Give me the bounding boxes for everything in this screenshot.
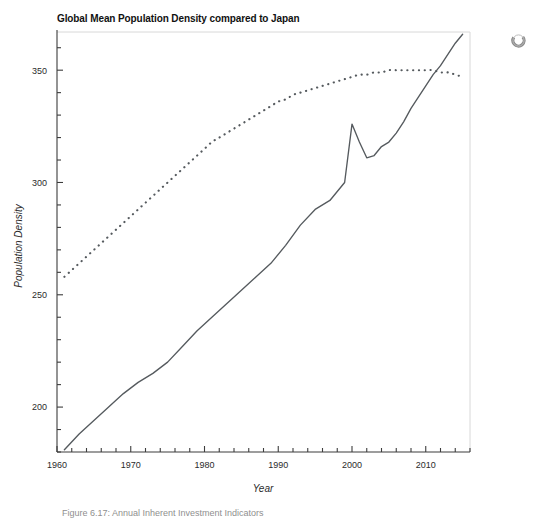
y-tick-label: 300: [32, 178, 47, 188]
figure-container: Global Mean Population Density compared …: [0, 0, 539, 520]
y-tick-label: 200: [32, 402, 47, 412]
x-tick-label: 2000: [342, 460, 362, 470]
x-tick-label: 1990: [268, 460, 288, 470]
y-tick-label: 250: [32, 290, 47, 300]
x-axis-ticks: [57, 446, 470, 452]
x-tick-label: 1960: [47, 460, 67, 470]
chart-plot[interactable]: 200250300350 196019701980199020002010 Ye…: [0, 0, 539, 520]
loading-spinner-icon[interactable]: [510, 32, 527, 49]
series-global-mean: [64, 70, 462, 277]
figure-caption: Figure 6.17: Annual Inherent Investment …: [62, 508, 482, 519]
x-tick-label: 1980: [194, 460, 214, 470]
y-axis-ticks: [57, 48, 63, 452]
y-axis-title: Population Density: [13, 203, 24, 287]
x-axis-tick-labels: 196019701980199020002010: [47, 460, 436, 470]
plot-frame: [57, 32, 470, 452]
y-tick-label: 350: [32, 66, 47, 76]
x-tick-label: 1970: [121, 460, 141, 470]
chart-axes: [57, 30, 470, 452]
y-axis-tick-labels: 200250300350: [32, 66, 47, 413]
series-japan: [64, 34, 462, 450]
x-axis-title: Year: [253, 483, 274, 494]
x-tick-label: 2010: [416, 460, 436, 470]
